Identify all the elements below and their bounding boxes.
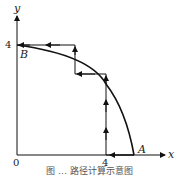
point-B-label: B	[20, 48, 28, 61]
point-A-label: A	[138, 143, 146, 156]
y-tick-4: 4	[5, 39, 11, 50]
x-axis-label: x	[168, 148, 174, 161]
y-axis-label: y	[14, 2, 20, 15]
diagram-canvas	[0, 0, 179, 181]
figure-caption: 图 … 路径计算示意图	[0, 164, 179, 177]
